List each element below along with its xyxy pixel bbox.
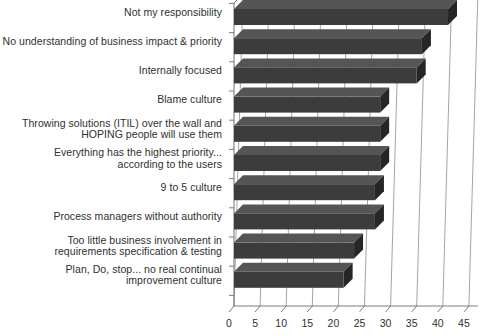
bar-front-face bbox=[234, 184, 375, 200]
xtick-label-10: 10 bbox=[275, 317, 287, 329]
xtick-label-0: 0 bbox=[226, 317, 232, 329]
xtick-label-40: 40 bbox=[432, 317, 444, 329]
bar-top-face bbox=[234, 0, 457, 9]
bar-front-face bbox=[234, 38, 422, 54]
xtick-30 bbox=[386, 306, 391, 312]
bar-2 bbox=[234, 58, 426, 83]
xtick-45 bbox=[464, 306, 469, 312]
xtick-25 bbox=[360, 306, 365, 312]
bar-8 bbox=[234, 234, 363, 259]
bar-top-face bbox=[234, 117, 389, 126]
xtick-20 bbox=[333, 306, 338, 312]
bar-front-face bbox=[234, 67, 417, 83]
plot-area: 051015202530354045 bbox=[0, 0, 484, 336]
gridline-x-40 bbox=[443, 0, 452, 306]
bar-9 bbox=[234, 263, 353, 288]
bar-front-face bbox=[234, 243, 354, 259]
xtick-40 bbox=[438, 306, 443, 312]
bar-front-face bbox=[234, 213, 375, 229]
xtick-label-35: 35 bbox=[406, 317, 418, 329]
xtick-label-20: 20 bbox=[328, 317, 340, 329]
xtick-label-45: 45 bbox=[458, 317, 470, 329]
bar-top-face bbox=[234, 263, 353, 272]
xtick-5 bbox=[255, 306, 260, 312]
bar-front-face bbox=[234, 272, 344, 288]
bar-4 bbox=[234, 117, 389, 142]
bar-chart: Not my responsibilityNo understanding of… bbox=[0, 0, 484, 336]
xtick-35 bbox=[412, 306, 417, 312]
xtick-label-25: 25 bbox=[354, 317, 366, 329]
bar-6 bbox=[234, 175, 384, 200]
bar-front-face bbox=[234, 155, 380, 171]
xtick-label-15: 15 bbox=[301, 317, 313, 329]
bar-5 bbox=[234, 146, 389, 171]
bar-top-face bbox=[234, 204, 384, 213]
xtick-0 bbox=[229, 306, 234, 312]
bar-top-face bbox=[234, 29, 431, 38]
bar-front-face bbox=[234, 126, 380, 142]
bar-7 bbox=[234, 204, 384, 229]
xtick-10 bbox=[281, 306, 286, 312]
gridline-x-45 bbox=[469, 0, 478, 306]
bar-front-face bbox=[234, 97, 380, 113]
bar-top-face bbox=[234, 234, 363, 243]
bar-0 bbox=[234, 0, 457, 25]
xtick-label-30: 30 bbox=[380, 317, 392, 329]
xtick-15 bbox=[307, 306, 312, 312]
bar-front-face bbox=[234, 9, 448, 25]
bar-top-face bbox=[234, 58, 426, 67]
bar-top-face bbox=[234, 175, 384, 184]
bar-1 bbox=[234, 29, 431, 54]
bar-top-face bbox=[234, 88, 389, 97]
bar-3 bbox=[234, 88, 389, 113]
bar-top-face bbox=[234, 146, 389, 155]
chart-svg: 051015202530354045 bbox=[0, 0, 484, 336]
xtick-label-5: 5 bbox=[252, 317, 258, 329]
